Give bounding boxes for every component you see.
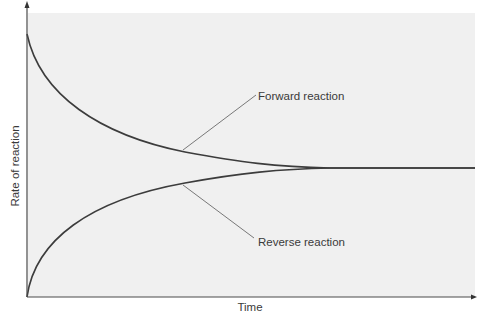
forward-reaction-label: Forward reaction: [258, 90, 344, 102]
plot-area: [28, 13, 475, 297]
reverse-reaction-label: Reverse reaction: [258, 236, 345, 248]
equilibrium-rate-chart: Forward reaction Reverse reaction Time R…: [0, 0, 478, 315]
x-axis-title: Time: [237, 301, 262, 313]
y-axis-title: Rate of reaction: [9, 125, 21, 206]
y-axis-arrow-icon: [25, 1, 30, 8]
